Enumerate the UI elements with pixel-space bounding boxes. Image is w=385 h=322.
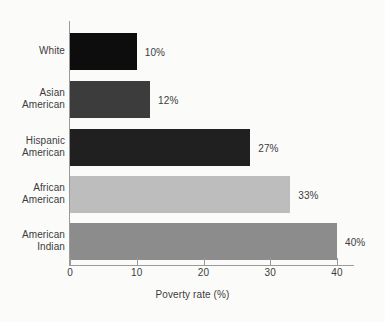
bar-value-label: 12% xyxy=(158,94,178,105)
category-label-line: American xyxy=(0,229,65,241)
x-tick-mark xyxy=(70,258,71,265)
bar-white xyxy=(70,33,137,70)
poverty-rate-bar-chart: 10%12%27%33%40% WhiteAsianAmericanHispan… xyxy=(0,0,385,322)
bar-hispanic-american xyxy=(70,129,250,166)
category-label-african-american: AfricanAmerican xyxy=(0,182,65,206)
bar-value-label: 33% xyxy=(298,189,318,200)
bar-african-american xyxy=(70,176,290,213)
category-label-asian-american: AsianAmerican xyxy=(0,87,65,111)
x-tick-mark xyxy=(204,258,205,265)
x-tick-label: 0 xyxy=(50,267,90,278)
x-tick-mark xyxy=(137,258,138,265)
bar-value-label: 40% xyxy=(345,236,365,247)
x-axis-line xyxy=(69,265,354,266)
category-label-line: American xyxy=(0,194,65,206)
category-label-line: Hispanic xyxy=(0,135,65,147)
category-label-line: Indian xyxy=(0,241,65,253)
x-tick-label: 20 xyxy=(184,267,224,278)
x-tick-label: 30 xyxy=(250,267,290,278)
category-label-line: Asian xyxy=(0,87,65,99)
bar-american-indian xyxy=(70,223,337,260)
bar-value-label: 10% xyxy=(145,46,165,57)
x-axis-title: Poverty rate (%) xyxy=(0,289,385,300)
bar-value-label: 27% xyxy=(258,142,278,153)
category-label-line: White xyxy=(0,45,65,57)
category-label-line: African xyxy=(0,182,65,194)
category-label-line: American xyxy=(0,147,65,159)
x-tick-mark xyxy=(270,258,271,265)
x-tick-label: 10 xyxy=(117,267,157,278)
bar-asian-american xyxy=(70,81,150,118)
x-tick-mark xyxy=(337,258,338,265)
category-label-line: American xyxy=(0,99,65,111)
x-tick-label: 40 xyxy=(317,267,357,278)
category-label-american-indian: AmericanIndian xyxy=(0,229,65,253)
category-label-white: White xyxy=(0,45,65,57)
category-label-hispanic-american: HispanicAmerican xyxy=(0,135,65,159)
